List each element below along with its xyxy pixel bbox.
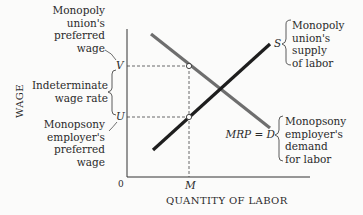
indeterminate-line-2: wage rate [32,92,108,105]
supply-desc-line-4: of labor [292,57,345,70]
y-axis-label: WAGE [14,84,27,118]
union-wage-line-1: Monopoly [53,4,106,17]
v-point [186,63,191,68]
demand-curve-label: MRP = D [225,128,275,141]
employer-wage-line-4: wage [44,156,105,169]
supply-description: Monopoly union's supply of labor [292,19,345,69]
indeterminate-brace [108,70,116,115]
supply-desc-line-1: Monopoly [292,19,345,32]
employer-wage-line-1: Monopsony [44,118,105,131]
union-wage-line-3: preferred [53,29,106,42]
supply-curve-label: S [274,37,281,50]
employer-arrow [109,122,117,131]
supply-desc-line-2: union's [292,32,345,45]
demand-description: Monopsony employer's demand for labor [285,115,346,165]
union-wage-label: Monopoly union's preferred wage [53,4,106,54]
union-wage-line-2: union's [53,17,106,30]
x-axis-label: QUANTITY OF LABOR [166,195,288,208]
u-tick-label: U [116,110,125,123]
employer-wage-line-3: preferred [44,143,105,156]
union-arrow [105,50,116,60]
supply-desc-line-3: supply [292,44,345,57]
indeterminate-line-1: Indeterminate [32,79,108,92]
v-tick-label: V [116,59,124,72]
union-wage-line-4: wage [53,42,106,55]
demand-desc-line-3: demand [285,140,346,153]
supply-brace [282,20,291,65]
u-point [186,114,191,119]
employer-wage-line-2: employer's [44,131,105,144]
employer-wage-label: Monopsony employer's preferred wage [44,118,105,168]
demand-line [151,34,270,128]
demand-desc-line-4: for labor [285,153,346,166]
demand-desc-line-2: employer's [285,128,346,141]
m-tick-label: M [185,179,196,192]
origin-label: 0 [118,178,124,191]
indeterminate-label: Indeterminate wage rate [32,79,108,104]
demand-desc-line-1: Monopsony [285,115,346,128]
demand-brace [275,116,283,161]
